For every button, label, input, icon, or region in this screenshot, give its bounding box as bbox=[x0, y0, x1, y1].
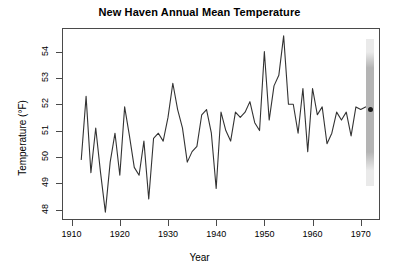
x-tick-mark bbox=[216, 220, 217, 226]
y-tick-label: 50 bbox=[0, 151, 50, 161]
temperature-line-series bbox=[62, 28, 380, 220]
y-tick-label: 49 bbox=[0, 177, 50, 187]
x-tick-mark bbox=[120, 220, 121, 226]
x-tick-label: 1910 bbox=[52, 229, 92, 239]
x-tick-label: 1940 bbox=[196, 229, 236, 239]
y-tick-label: 52 bbox=[0, 98, 50, 108]
x-tick-label: 1930 bbox=[148, 229, 188, 239]
forecast-point-marker bbox=[368, 107, 373, 112]
x-tick-mark bbox=[168, 220, 169, 226]
x-tick-label: 1920 bbox=[100, 229, 140, 239]
x-axis-title: Year bbox=[0, 252, 399, 263]
temperature-polyline bbox=[81, 36, 365, 212]
x-tick-label: 1950 bbox=[244, 229, 284, 239]
x-tick-label: 1960 bbox=[293, 229, 333, 239]
chart-title: New Haven Annual Mean Temperature bbox=[0, 6, 399, 18]
x-tick-label: 1970 bbox=[341, 229, 381, 239]
x-tick-mark bbox=[313, 220, 314, 226]
x-tick-mark bbox=[72, 220, 73, 226]
plot-area bbox=[62, 28, 380, 220]
y-tick-label: 53 bbox=[0, 72, 50, 82]
y-tick-label: 51 bbox=[0, 125, 50, 135]
chart-canvas: New Haven Annual Mean Temperature Temper… bbox=[0, 0, 399, 275]
y-tick-label: 54 bbox=[0, 46, 50, 56]
y-tick-label: 48 bbox=[0, 204, 50, 214]
forecast-interval-bar bbox=[366, 39, 374, 186]
x-tick-mark bbox=[264, 220, 265, 226]
x-tick-mark bbox=[361, 220, 362, 226]
